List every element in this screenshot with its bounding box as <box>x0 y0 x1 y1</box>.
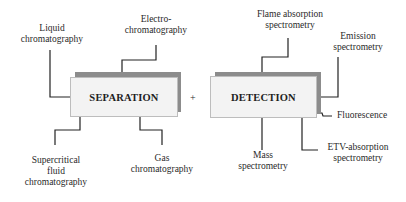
label-liquid-chromatography: Liquid chromatography <box>14 23 90 45</box>
detection-title: DETECTION <box>231 92 296 103</box>
separation-box: SEPARATION <box>70 77 178 117</box>
label-emission-spectrometry: Emission spectrometry <box>320 31 396 53</box>
separation-title: SEPARATION <box>89 92 158 103</box>
label-etv-absorption-spectrometry: ETV-absorption spectrometry <box>320 142 396 164</box>
label-supercritical-fluid-chromatography: Supercritical fluid chromatography <box>18 155 94 188</box>
label-electro-chromatography: Electro- chromatography <box>118 14 194 36</box>
label-gas-chromatography: Gas chromatography <box>124 153 200 175</box>
plus-operator: + <box>190 92 196 103</box>
label-mass-spectrometry: Mass spectrometry <box>225 150 301 172</box>
label-fluorescence: Fluorescence <box>337 110 401 121</box>
label-flame-absorption-spectrometry: Flame absorption spectrometry <box>250 9 330 31</box>
detection-box: DETECTION <box>210 76 317 118</box>
